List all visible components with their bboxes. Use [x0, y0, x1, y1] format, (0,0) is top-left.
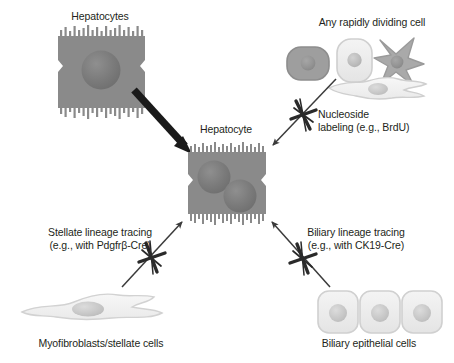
cell-rounded-light [337, 39, 372, 82]
cell-source-hepatocyte [58, 25, 145, 119]
label-source-hepatocytes: Hepatocytes [40, 10, 160, 23]
label-biliary-lineage-tracing: Biliary lineage tracing (e.g., with CK19… [266, 226, 446, 251]
label-biliary-epithelial-cells: Biliary epithelial cells [292, 337, 446, 350]
label-myofibroblasts: Myofibroblasts/stellate cells [8, 337, 194, 350]
cell-myofibroblast [22, 294, 162, 319]
label-center-hepatocyte: Hepatocyte [176, 123, 276, 136]
diagram-graphics [0, 0, 454, 363]
cell-biliary-1 [318, 291, 358, 333]
label-nucleoside-labeling: Nucleoside labeling (e.g., BrdU) [318, 108, 450, 133]
label-stellate-lineage-tracing: Stellate lineage tracing (e.g., with Pdg… [8, 226, 192, 251]
cell-center-hepatocyte [188, 142, 266, 225]
cell-rounded-dark [287, 47, 329, 80]
cell-biliary-2 [360, 291, 400, 333]
label-dividing-cell: Any rapidly dividing cell [290, 16, 454, 29]
cell-group-dividing [287, 38, 426, 99]
cell-group-biliary-epithelial [318, 291, 442, 333]
cell-biliary-3 [402, 291, 442, 333]
figure-canvas: Hepatocytes Any rapidly dividing cell He… [0, 0, 454, 363]
arrow-hepatocyte-to-hepatocyte [134, 90, 192, 154]
